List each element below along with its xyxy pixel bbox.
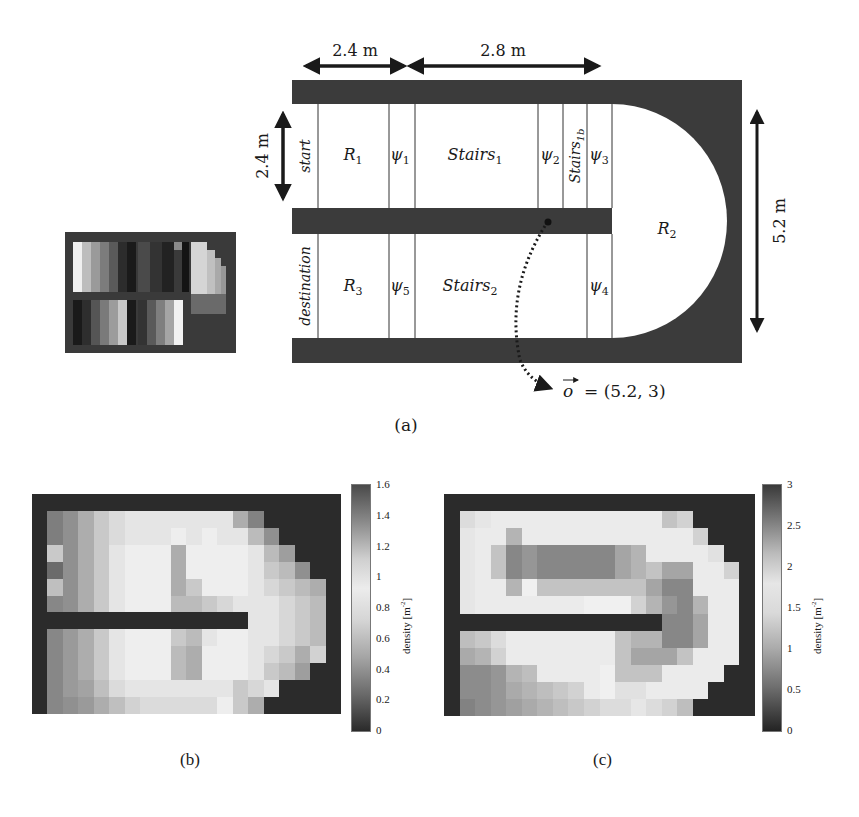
heatmap-cell [186,612,201,629]
colorbar-tick-label: 0.4 [376,664,390,675]
heatmap-cell [739,614,755,631]
heatmap-cell [584,682,600,699]
heatmap-cell [553,528,569,545]
heatmap-cell [264,562,279,579]
heatmap-cell [310,612,325,629]
heatmap-cell [615,528,631,545]
heatmap-cell [186,697,201,714]
heatmap-cell [615,648,631,665]
heatmap-cell [109,494,124,511]
heatmap-cell [233,562,248,579]
heatmap-cell [140,494,155,511]
heatmap-cell [444,682,460,699]
heatmap-cell [460,511,476,528]
floorplan-schematic: 2.4 m 2.8 m 2.4 m 5.2 m start R1 ψ1 Stai… [0,0,859,460]
heatmap-cell [739,596,755,613]
heatmap-cell [631,648,647,665]
heatmap-cell [646,562,662,579]
heatmap-cell [646,648,662,665]
heatmap-cell [708,682,724,699]
heatmap-cell [537,528,553,545]
heatmap-cell [326,697,341,714]
heatmap-cell [310,646,325,663]
heatmap-cell [156,596,171,613]
heatmap-cell [444,511,460,528]
heatmap-cell [522,511,538,528]
heatmap-cell [279,511,294,528]
heatmap-cell [491,699,507,716]
heatmap-cell [724,579,740,596]
heatmap-cell [156,629,171,646]
heatmap-cell [724,699,740,716]
heatmap-cell [646,631,662,648]
heatmap-cell [140,579,155,596]
heatmap-cell [739,579,755,596]
heatmap-cell [295,629,310,646]
heatmap-cell [217,545,232,562]
heatmap-cell [491,562,507,579]
heatmap-cell [646,682,662,699]
heatmap-cell [78,528,93,545]
heatmap-cell [32,511,47,528]
heatmap-cell [568,596,584,613]
heatmap-cell [47,697,62,714]
heatmap-cell [553,511,569,528]
heatmap-cell [506,665,522,682]
heatmap-cell [202,511,217,528]
heatmap-cell [295,596,310,613]
heatmap-cell [279,697,294,714]
heatmap-cell [522,665,538,682]
heatmap-cell [631,614,647,631]
heatmap-cell [693,545,709,562]
heatmap-cell [568,562,584,579]
heatmap-cell [631,665,647,682]
heatmap-cell [109,612,124,629]
heatmap-cell [615,699,631,716]
heatmap-cell [708,579,724,596]
heatmap-cell [326,680,341,697]
heatmap-cell [156,697,171,714]
heatmap-cell [171,511,186,528]
heatmap-cell [677,579,693,596]
heatmap-cell [537,648,553,665]
heatmap-cell [63,680,78,697]
heatmap-cell [708,562,724,579]
heatmap-cell [677,665,693,682]
heatmap-cell [156,494,171,511]
heatmap-cell [248,697,263,714]
heatmap-cell [646,699,662,716]
heatmap-cell [47,680,62,697]
heatmap-cell [584,648,600,665]
heatmap-cell [186,494,201,511]
heatmap-cell [156,562,171,579]
heatmap-cell [310,545,325,562]
heatmap-cell [32,663,47,680]
heatmap-cell [522,494,538,511]
heatmap-cell [460,562,476,579]
heatmap-cell [202,646,217,663]
heatmap-cell [646,579,662,596]
heatmap-cell [677,511,693,528]
heatmap-cell [553,494,569,511]
heatmap-cell [109,528,124,545]
heatmap-cell [248,646,263,663]
heatmap-cell [553,596,569,613]
middle-wall [292,208,612,234]
heatmap-cell [171,629,186,646]
heatmap-cell [708,494,724,511]
heatmap-cell [693,665,709,682]
heatmap-cell [47,612,62,629]
density-heatmap-b [32,494,341,714]
heatmap-cell [32,697,47,714]
colorbar-tick-label: 1.2 [376,541,390,552]
heatmap-cell [460,631,476,648]
heatmap-cell [600,596,616,613]
density-heatmap-c [444,494,755,716]
heatmap-cell [186,528,201,545]
heatmap-cell [615,579,631,596]
heatmap-cell [248,612,263,629]
heatmap-cell [202,494,217,511]
heatmap-cell [217,646,232,663]
heatmap-cell [264,494,279,511]
heatmap-cell [279,596,294,613]
